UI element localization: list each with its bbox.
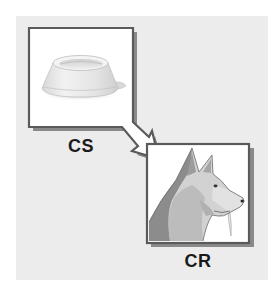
- cr-label: CR: [181, 252, 215, 270]
- cs-label: CS: [64, 137, 98, 155]
- conditioning-diagram: [0, 0, 275, 290]
